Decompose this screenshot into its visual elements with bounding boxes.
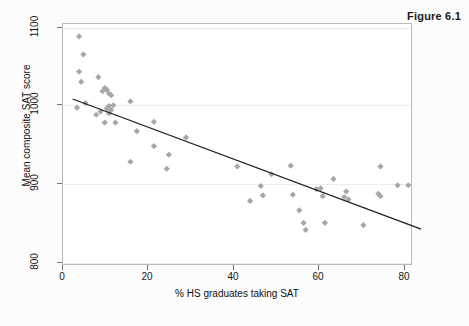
- data-point: [127, 98, 133, 104]
- data-point: [300, 220, 306, 226]
- xtick-label-20: 20: [132, 271, 162, 282]
- data-point: [78, 79, 84, 85]
- data-point: [234, 163, 240, 169]
- data-point: [290, 192, 296, 198]
- data-point: [134, 128, 140, 134]
- xtick-20: [147, 265, 148, 270]
- data-point: [360, 222, 366, 228]
- xtick-0: [62, 265, 63, 270]
- data-point: [74, 105, 80, 111]
- xtick-label-80: 80: [389, 271, 419, 282]
- data-point: [405, 182, 411, 188]
- data-point: [80, 51, 86, 57]
- data-point: [164, 166, 170, 172]
- data-point: [288, 163, 294, 169]
- figure-root: Figure 6.1 1100 1000 900 800 0 20 40 60: [0, 0, 469, 326]
- data-point: [322, 220, 328, 226]
- xtick-label-0: 0: [47, 271, 77, 282]
- data-point: [343, 188, 349, 194]
- data-point: [247, 198, 253, 204]
- y-axis-title: Mean composite SAT score: [21, 26, 32, 226]
- plot-data-layer: [62, 23, 412, 265]
- data-point: [258, 183, 264, 189]
- xtick-80: [404, 265, 405, 270]
- data-point: [303, 227, 309, 233]
- data-point: [112, 119, 118, 125]
- xtick-label-60: 60: [303, 271, 333, 282]
- ytick-900: [57, 183, 62, 184]
- data-point: [166, 152, 172, 158]
- scatter-plot: 1100 1000 900 800 0 20 40 60 80 Mean com…: [0, 0, 469, 326]
- data-point: [102, 119, 108, 125]
- xtick-label-40: 40: [218, 271, 248, 282]
- xtick-40: [233, 265, 234, 270]
- ytick-1000: [57, 104, 62, 105]
- data-point: [183, 134, 189, 140]
- xtick-60: [318, 265, 319, 270]
- data-point: [127, 159, 133, 165]
- data-point: [76, 33, 82, 39]
- data-point: [330, 176, 336, 182]
- data-point: [394, 182, 400, 188]
- data-point: [296, 207, 302, 213]
- data-point: [76, 69, 82, 75]
- data-point: [151, 119, 157, 125]
- data-point: [320, 193, 326, 199]
- ytick-1100: [57, 27, 62, 28]
- ytick-800: [57, 262, 62, 263]
- ytick-label-800: 800: [29, 242, 40, 282]
- data-point: [151, 143, 157, 149]
- data-markers: [74, 33, 412, 233]
- data-point: [377, 163, 383, 169]
- x-axis-title: % HS graduates taking SAT: [62, 288, 412, 299]
- data-point: [260, 192, 266, 198]
- data-point: [95, 74, 101, 80]
- regression-line: [73, 99, 421, 229]
